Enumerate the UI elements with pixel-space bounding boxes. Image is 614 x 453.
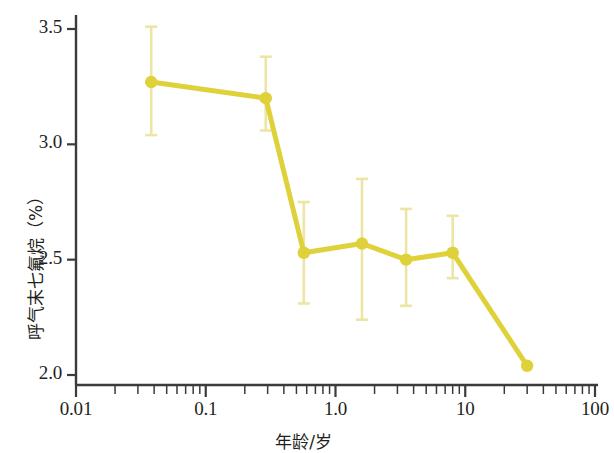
y-tick-label: 3.5	[0, 16, 62, 38]
x-axis-ticks	[76, 385, 595, 397]
data-line	[151, 82, 527, 366]
data-markers	[145, 76, 533, 372]
x-tick-label: 100	[535, 398, 614, 420]
y-axis-ticks	[67, 29, 76, 375]
y-tick-label: 2.0	[0, 362, 62, 384]
axis-lines	[75, 15, 598, 385]
x-tick-label: 10	[405, 398, 525, 420]
x-tick-label: 1.0	[276, 398, 396, 420]
error-bars	[145, 27, 458, 320]
x-tick-label: 0.01	[16, 398, 136, 420]
x-tick-label: 0.1	[146, 398, 266, 420]
x-axis-title: 年龄/岁	[0, 428, 607, 453]
y-tick-label: 3.0	[0, 131, 62, 153]
y-axis-title: 呼气末七氟烷（%）	[22, 188, 47, 340]
